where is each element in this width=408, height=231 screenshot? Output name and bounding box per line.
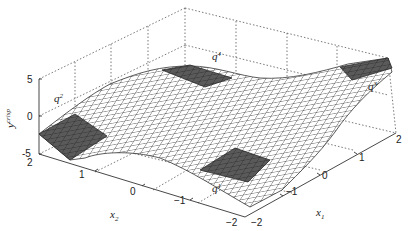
x1-tick-0: 0 bbox=[322, 170, 328, 181]
x1-tick-1: 1 bbox=[359, 152, 365, 163]
svg-text:ycrisp: ycrisp bbox=[4, 109, 16, 129]
x1-axis-label: x1 bbox=[315, 206, 324, 221]
x1-tick-minus1: −1 bbox=[286, 186, 298, 197]
region-label-q1: q1 bbox=[212, 182, 221, 194]
x2-tick-0: 0 bbox=[130, 186, 136, 197]
x2-tick-minus2: −2 bbox=[226, 217, 238, 228]
region-label-q2: q2 bbox=[54, 92, 64, 104]
surface-plot: 5 0 -5 2 1 0 −1 −2 −2 −1 0 1 2 ycrisp x2… bbox=[0, 0, 408, 231]
z-tick-5: 5 bbox=[27, 74, 33, 85]
region-label-q3: q3 bbox=[368, 80, 378, 92]
x2-tick-1: 1 bbox=[79, 169, 85, 180]
z-tick-0: 0 bbox=[27, 111, 33, 122]
x1-tick-minus2: −2 bbox=[251, 217, 263, 228]
x2-axis-label: x2 bbox=[109, 208, 119, 223]
x2-tick-minus1: −1 bbox=[174, 195, 186, 206]
x1-tick-2: 2 bbox=[396, 134, 402, 145]
region-label-q4: q4 bbox=[212, 50, 222, 62]
x2-tick-2: 2 bbox=[27, 157, 33, 168]
z-axis-label: ycrisp bbox=[4, 109, 16, 129]
